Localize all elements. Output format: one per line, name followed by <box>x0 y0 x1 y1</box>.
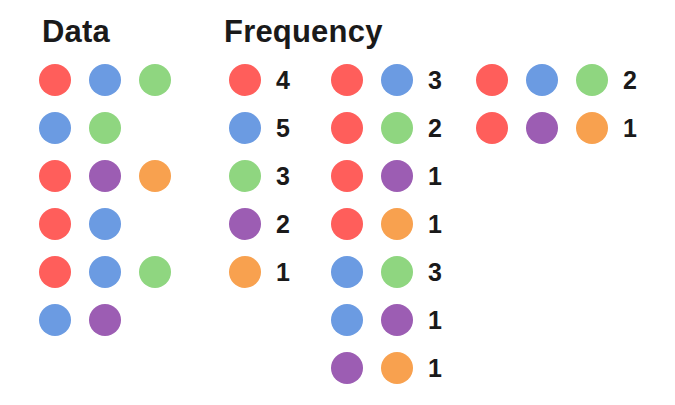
frequency-count: 2 <box>623 64 637 96</box>
blue-circle-icon <box>229 112 261 144</box>
green-circle-icon <box>381 256 413 288</box>
blue-circle-icon <box>89 208 121 240</box>
red-circle-icon <box>331 64 363 96</box>
frequency-count: 1 <box>428 208 442 240</box>
blue-circle-icon <box>381 64 413 96</box>
purple-circle-icon <box>381 160 413 192</box>
green-circle-icon <box>576 64 608 96</box>
frequency-count: 1 <box>428 352 442 384</box>
frequency-count: 1 <box>428 304 442 336</box>
red-circle-icon <box>331 112 363 144</box>
frequency-count: 1 <box>276 256 290 288</box>
purple-circle-icon <box>89 160 121 192</box>
purple-circle-icon <box>381 304 413 336</box>
red-circle-icon <box>39 64 71 96</box>
frequency-count: 2 <box>276 208 290 240</box>
orange-circle-icon <box>139 160 171 192</box>
red-circle-icon <box>476 64 508 96</box>
orange-circle-icon <box>576 112 608 144</box>
blue-circle-icon <box>39 112 71 144</box>
frequency-count: 3 <box>428 64 442 96</box>
frequency-count: 3 <box>428 256 442 288</box>
orange-circle-icon <box>381 352 413 384</box>
green-circle-icon <box>139 64 171 96</box>
blue-circle-icon <box>526 64 558 96</box>
blue-circle-icon <box>331 256 363 288</box>
frequency-count: 1 <box>428 160 442 192</box>
blue-circle-icon <box>89 256 121 288</box>
green-circle-icon <box>381 112 413 144</box>
purple-circle-icon <box>331 352 363 384</box>
blue-circle-icon <box>39 304 71 336</box>
red-circle-icon <box>476 112 508 144</box>
green-circle-icon <box>139 256 171 288</box>
frequency-count: 1 <box>623 112 637 144</box>
frequency-count: 5 <box>276 112 290 144</box>
red-circle-icon <box>39 256 71 288</box>
frequency-count: 2 <box>428 112 442 144</box>
red-circle-icon <box>229 64 261 96</box>
red-circle-icon <box>39 160 71 192</box>
frequency-title: Frequency <box>224 14 383 50</box>
data-title: Data <box>42 14 110 50</box>
blue-circle-icon <box>331 304 363 336</box>
blue-circle-icon <box>89 64 121 96</box>
purple-circle-icon <box>89 304 121 336</box>
green-circle-icon <box>89 112 121 144</box>
orange-circle-icon <box>381 208 413 240</box>
frequency-count: 3 <box>276 160 290 192</box>
frequency-count: 4 <box>276 64 290 96</box>
red-circle-icon <box>39 208 71 240</box>
purple-circle-icon <box>229 208 261 240</box>
red-circle-icon <box>331 160 363 192</box>
purple-circle-icon <box>526 112 558 144</box>
red-circle-icon <box>331 208 363 240</box>
orange-circle-icon <box>229 256 261 288</box>
green-circle-icon <box>229 160 261 192</box>
